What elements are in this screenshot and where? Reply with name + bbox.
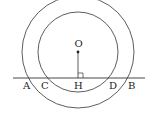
label-H: H — [74, 80, 83, 91]
label-A: A — [22, 80, 31, 91]
geometry-diagram: O A C H D B — [0, 0, 154, 122]
right-angle-marker — [78, 73, 83, 78]
label-O: O — [75, 38, 83, 49]
center-point-O — [77, 51, 80, 54]
label-B: B — [128, 80, 135, 91]
label-C: C — [41, 80, 49, 91]
label-D: D — [109, 80, 117, 91]
